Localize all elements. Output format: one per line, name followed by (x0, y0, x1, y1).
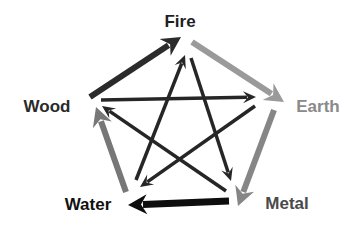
node-label-metal: Metal (265, 194, 308, 214)
node-label-wood: Wood (24, 97, 71, 117)
node-label-water: Water (65, 195, 112, 215)
node-label-earth: Earth (296, 97, 339, 117)
arrow-fire-to-earth (192, 42, 284, 102)
arrow-metal-to-water (128, 194, 229, 214)
arrow-earth-to-metal (235, 110, 274, 206)
arrow-fire-to-metal (191, 58, 233, 181)
arrow-wood-to-earth (101, 91, 256, 103)
five-elements-diagram: Fire Earth Metal Water Wood (0, 0, 363, 231)
node-label-fire: Fire (164, 12, 195, 32)
arrow-wood-to-fire (90, 37, 181, 97)
arrow-earth-to-water (140, 106, 255, 187)
